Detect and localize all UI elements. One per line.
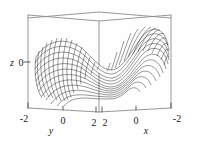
x-tick-label-neg2: -2 bbox=[173, 113, 181, 124]
x-tick-label-0: 0 bbox=[134, 115, 139, 126]
z-tick-label-0: 0 bbox=[19, 57, 24, 68]
y-tick-label-neg2: -2 bbox=[20, 113, 28, 124]
x-axis-title: x bbox=[143, 125, 149, 136]
y-axis-title: y bbox=[48, 125, 54, 136]
y-tick-label-2: 2 bbox=[92, 117, 97, 128]
x-tick-label-2: 2 bbox=[103, 117, 108, 128]
surface-plot-figure: z 0 -2 0 2 y 2 0 -2 x bbox=[0, 0, 197, 142]
plot-canvas: z 0 -2 0 2 y 2 0 -2 x bbox=[0, 0, 197, 142]
z-axis-title: z bbox=[9, 57, 14, 68]
y-tick-label-0: 0 bbox=[61, 115, 66, 126]
